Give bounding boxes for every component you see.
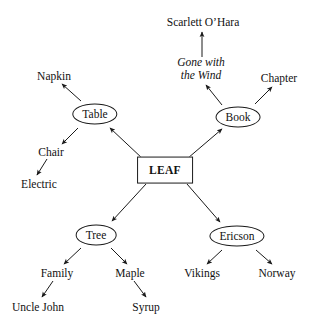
- node-chair: Chair: [38, 146, 64, 159]
- node-vikings: Vikings: [184, 267, 220, 280]
- semantic-network-diagram: LEAFTableBookTreeEricsonNapkinChairElect…: [0, 0, 312, 330]
- edge-leaf-to-book: [188, 129, 222, 158]
- edge-leaf-to-tree: [112, 184, 146, 221]
- edge-leaf-to-table: [110, 128, 143, 159]
- edge-maple-to-syrup: [134, 281, 146, 297]
- node-chapter: Chapter: [261, 72, 297, 85]
- node-syrup: Syrup: [132, 301, 159, 314]
- node-leaf: LEAF: [137, 157, 193, 184]
- node-gone: Gone withthe Wind: [177, 56, 225, 82]
- node-tree: Tree: [76, 225, 117, 246]
- edge-table-to-chair: [62, 128, 78, 144]
- node-uncle_john: Uncle John: [12, 301, 64, 314]
- edge-ericson-to-vikings: [207, 250, 222, 264]
- edge-book-to-gone: [206, 85, 222, 105]
- node-table: Table: [72, 104, 117, 125]
- edge-tree-to-family: [64, 248, 81, 264]
- node-book: Book: [216, 107, 261, 128]
- node-ericson: Ericson: [209, 226, 264, 247]
- node-maple: Maple: [115, 267, 144, 280]
- edge-book-to-chapter: [255, 87, 272, 104]
- edge-chair-to-electric: [37, 159, 47, 175]
- edge-leaf-to-ericson: [187, 184, 220, 222]
- node-electric: Electric: [21, 178, 57, 191]
- edge-ericson-to-norway: [256, 250, 272, 264]
- node-norway: Norway: [258, 267, 295, 280]
- node-family: Family: [41, 267, 74, 280]
- edge-tree-to-maple: [111, 248, 127, 264]
- node-scarlett: Scarlett O’Hara: [167, 16, 239, 29]
- node-napkin: Napkin: [37, 70, 71, 83]
- edge-family-to-uncle_john: [42, 281, 53, 297]
- edge-table-to-napkin: [62, 84, 81, 101]
